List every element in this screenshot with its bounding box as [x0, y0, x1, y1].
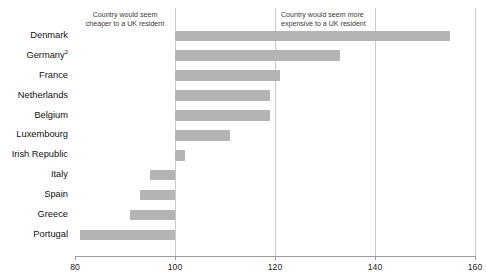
x-tick-140 — [375, 256, 376, 260]
category-label-germany-text: Germany — [26, 50, 64, 60]
bar-denmark — [175, 31, 450, 42]
x-tick-label-80: 80 — [70, 262, 80, 272]
bar-portugal — [80, 230, 175, 241]
category-label-irish-republic: Irish Republic — [0, 145, 68, 165]
category-label-spain: Spain — [0, 185, 68, 205]
category-label-belgium: Belgium — [0, 106, 68, 126]
x-tick-label-140: 140 — [368, 262, 382, 272]
bar-netherlands — [175, 90, 270, 101]
table-row: Portugal — [0, 225, 486, 245]
table-row: Irish Republic — [0, 145, 486, 165]
footnote-marker-germany: 2 — [65, 49, 68, 55]
bar-rows: Denmark Germany2 France Netherlands Belg… — [0, 26, 486, 245]
table-row: Germany2 — [0, 46, 486, 66]
bar-belgium — [175, 110, 270, 121]
x-tick-label-160: 160 — [468, 262, 482, 272]
category-label-netherlands: Netherlands — [0, 86, 68, 106]
table-row: France — [0, 66, 486, 86]
bar-greece — [130, 210, 175, 221]
table-row: Netherlands — [0, 86, 486, 106]
x-tick-100 — [175, 256, 176, 260]
x-tick-label-120: 120 — [268, 262, 282, 272]
category-label-france: France — [0, 66, 68, 86]
category-label-luxembourg: Luxembourg — [0, 125, 68, 145]
x-tick-label-100: 100 — [168, 262, 182, 272]
bar-germany — [175, 50, 340, 61]
table-row: Spain — [0, 185, 486, 205]
plot-area: Country would seem cheaper to a UK resid… — [0, 0, 486, 277]
table-row: Greece — [0, 205, 486, 225]
x-tick-80 — [75, 256, 76, 260]
bar-luxembourg — [175, 130, 230, 141]
category-label-germany: Germany2 — [0, 46, 68, 66]
category-label-denmark: Denmark — [0, 26, 68, 46]
bar-spain — [140, 190, 175, 201]
category-label-italy: Italy — [0, 165, 68, 185]
table-row: Denmark — [0, 26, 486, 46]
table-row: Italy — [0, 165, 486, 185]
bar-irish-republic — [175, 150, 185, 161]
table-row: Luxembourg — [0, 125, 486, 145]
x-tick-120 — [275, 256, 276, 260]
price-comparison-bar-chart: Country would seem cheaper to a UK resid… — [0, 0, 486, 277]
bar-france — [175, 70, 280, 81]
table-row: Belgium — [0, 106, 486, 126]
category-label-portugal: Portugal — [0, 225, 68, 245]
bar-italy — [150, 170, 175, 181]
category-label-greece: Greece — [0, 205, 68, 225]
x-tick-160 — [475, 256, 476, 260]
